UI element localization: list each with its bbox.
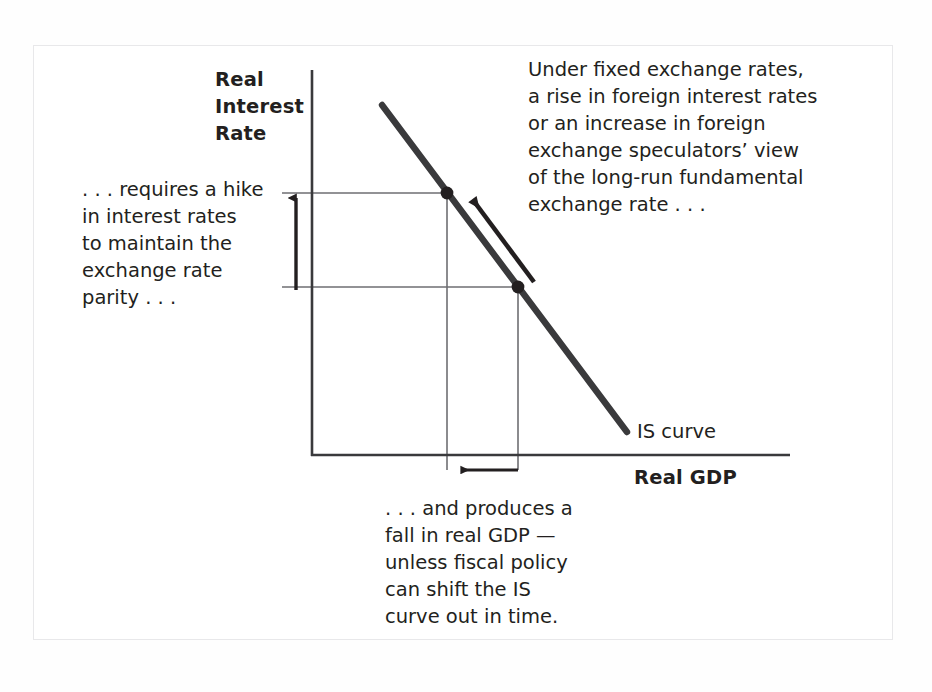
annotation-line: . . . and produces a — [385, 497, 573, 520]
annotation-line: exchange speculators’ view — [528, 139, 799, 162]
annotation-line: can shift the IS — [385, 578, 531, 601]
is-curve-label: IS curve — [637, 420, 716, 443]
annotation-line: in interest rates — [82, 205, 237, 228]
annotation-line: . . . requires a hike — [82, 178, 263, 201]
annotation-line: a rise in foreign interest rates — [528, 85, 817, 108]
annotation-line: curve out in time. — [385, 605, 558, 628]
y-axis-label-line-2: Interest — [215, 95, 304, 118]
annotation-line: exchange rate . . . — [528, 193, 706, 216]
foreign-rates-annotation: Under fixed exchange rates, a rise in fo… — [528, 58, 824, 216]
is-curve-diagram: Real Interest Rate Real GDP IS curve Und… — [0, 0, 932, 692]
annotation-line: of the long-run fundamental — [528, 166, 804, 189]
interest-rate-hike-annotation: . . . requires a hike in interest rates … — [82, 178, 270, 309]
initial-equilibrium-point — [512, 281, 525, 294]
annotation-line: fall in real GDP — — [385, 524, 556, 547]
gdp-fall-annotation: . . . and produces a fall in real GDP — … — [385, 497, 579, 628]
annotation-line: unless fiscal policy — [385, 551, 568, 574]
y-axis-label-line-1: Real — [215, 68, 264, 91]
new-equilibrium-point — [441, 187, 454, 200]
y-axis-label: Real Interest Rate — [215, 68, 311, 145]
annotation-line: or an increase in foreign — [528, 112, 766, 135]
annotation-line: Under fixed exchange rates, — [528, 58, 804, 81]
figure-root: Real Interest Rate Real GDP IS curve Und… — [0, 0, 932, 692]
annotation-line: parity . . . — [82, 286, 176, 309]
x-axis-label: Real GDP — [634, 466, 737, 489]
annotation-line: to maintain the — [82, 232, 232, 255]
annotation-line: exchange rate — [82, 259, 222, 282]
y-axis-label-line-3: Rate — [215, 122, 267, 145]
